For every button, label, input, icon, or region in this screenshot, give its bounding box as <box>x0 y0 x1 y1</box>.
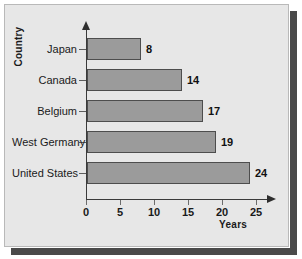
x-axis-tick-label: 25 <box>241 206 271 218</box>
bar-united-states[interactable] <box>87 162 250 184</box>
x-axis-tick <box>86 200 87 205</box>
bar-belgium[interactable] <box>87 100 203 122</box>
bar-value-label: 14 <box>187 74 199 86</box>
x-axis-tick-label: 15 <box>173 206 203 218</box>
x-axis-tick <box>188 200 189 205</box>
plot-area: Country Years 0 5 10 15 20 25 Japan Cana… <box>5 5 290 248</box>
x-axis-line <box>86 199 269 200</box>
bar-value-label: 17 <box>208 105 220 117</box>
x-axis-tick <box>222 200 223 205</box>
bar-value-label: 24 <box>255 167 267 179</box>
x-axis-tick-label: 0 <box>71 206 101 218</box>
y-axis-category-label: United States <box>12 167 86 179</box>
chart-figure: Country Years 0 5 10 15 20 25 Japan Cana… <box>4 4 289 247</box>
y-axis-category-label: West Germany <box>12 136 86 148</box>
y-axis-category-label: Belgium <box>12 105 86 117</box>
y-axis-arrow-icon <box>82 21 90 30</box>
bar-west-germany[interactable] <box>87 131 216 153</box>
bar-canada[interactable] <box>87 69 182 91</box>
x-axis-tick <box>256 200 257 205</box>
x-axis-arrow-icon <box>267 195 276 203</box>
x-axis-tick-label: 20 <box>207 206 237 218</box>
x-axis-tick-label: 5 <box>105 206 135 218</box>
figure-drop-shadow-bottom <box>11 248 297 255</box>
figure-drop-shadow-right <box>290 11 297 254</box>
y-axis-category-label: Japan <box>12 43 86 55</box>
x-axis-tick <box>120 200 121 205</box>
y-axis-category-label: Canada <box>12 74 86 86</box>
x-axis-tick-label: 10 <box>139 206 169 218</box>
bar-value-label: 8 <box>146 43 152 55</box>
bar-value-label: 19 <box>221 136 233 148</box>
x-axis-title: Years <box>219 219 247 230</box>
x-axis-tick <box>154 200 155 205</box>
bar-japan[interactable] <box>87 38 141 60</box>
